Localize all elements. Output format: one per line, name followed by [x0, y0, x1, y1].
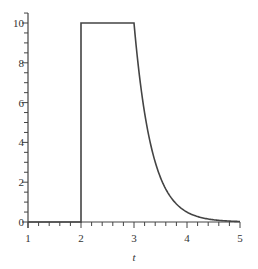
- x-axis-label: t: [132, 251, 136, 263]
- y-tick-label: 2: [19, 176, 25, 188]
- y-tick-label: 8: [19, 57, 25, 69]
- x-tick-label: 5: [237, 232, 243, 244]
- line-chart: 12345 0246810 t: [0, 0, 258, 269]
- y-axis: 0246810: [13, 13, 28, 228]
- x-axis: 12345: [25, 222, 243, 244]
- x-tick-label: 2: [78, 232, 84, 244]
- x-tick-label: 3: [131, 232, 137, 244]
- y-tick-label: 0: [19, 216, 25, 228]
- y-tick-label: 6: [19, 97, 25, 109]
- x-tick-label: 4: [184, 232, 190, 244]
- y-tick-label: 10: [13, 17, 25, 29]
- x-tick-label: 1: [25, 232, 31, 244]
- data-series-line: [28, 23, 240, 222]
- y-tick-label: 4: [19, 136, 25, 148]
